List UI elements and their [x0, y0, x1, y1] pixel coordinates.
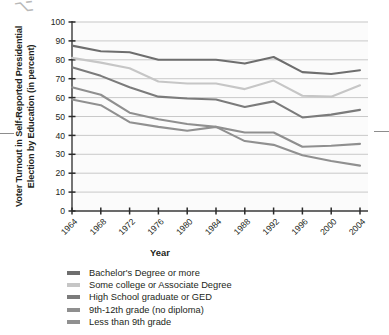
y-tick-label-0: 0 [60, 206, 65, 216]
y-tick-label-90: 90 [55, 36, 65, 46]
y-tick-label-50: 50 [55, 112, 65, 122]
x-tick-label-1976: 1976 [145, 216, 166, 237]
legend-swatch-icon-1 [67, 283, 80, 287]
y-tick-label-80: 80 [55, 55, 65, 65]
y-tick-label-100: 100 [51, 17, 66, 27]
x-tick-label-1972: 1972 [116, 216, 137, 237]
legend-label-3: 9th-12th grade (no diploma) [89, 305, 204, 315]
x-axis-title: Year [0, 247, 320, 258]
x-tick-label-2000: 2000 [318, 216, 339, 237]
legend-item-3: 9th-12th grade (no diploma) [67, 304, 367, 316]
legend-swatch-icon-4 [67, 320, 80, 324]
x-tick-label-1996: 1996 [289, 216, 310, 237]
voter-turnout-line-chart: Voter Turnout in Self-Reported President… [0, 0, 389, 335]
legend-label-0: Bachelor's Degree or more [89, 268, 200, 278]
y-tick-label-20: 20 [55, 168, 65, 178]
y-tick-label-40: 40 [55, 131, 65, 141]
legend-swatch-icon-0 [67, 271, 80, 275]
chart-legend: Bachelor's Degree or moreSome college or… [67, 267, 367, 328]
legend-item-1: Some college or Associate Degree [67, 279, 367, 291]
y-tick-label-60: 60 [55, 93, 65, 103]
y-tick-label-70: 70 [55, 74, 65, 84]
legend-item-0: Bachelor's Degree or more [67, 267, 367, 279]
x-tick-label-1968: 1968 [88, 216, 109, 237]
x-tick-label-1984: 1984 [203, 216, 224, 237]
x-tick-label-2004: 2004 [347, 216, 368, 237]
plot-area: 0102030405060708090100196419681972197619… [0, 0, 389, 260]
y-tick-label-10: 10 [55, 187, 65, 197]
legend-item-2: High School graduate or GED [67, 291, 367, 303]
legend-swatch-icon-3 [67, 308, 80, 312]
x-tick-label-1980: 1980 [174, 216, 195, 237]
legend-label-1: Some college or Associate Degree [89, 280, 232, 290]
x-tick-label-1964: 1964 [59, 216, 80, 237]
legend-label-2: High School graduate or GED [89, 292, 212, 302]
x-tick-label-1988: 1988 [232, 216, 253, 237]
y-tick-label-30: 30 [55, 149, 65, 159]
legend-label-4: Less than 9th grade [89, 317, 171, 327]
legend-swatch-icon-2 [67, 295, 80, 299]
x-tick-label-1992: 1992 [260, 216, 281, 237]
legend-item-4: Less than 9th grade [67, 316, 367, 328]
